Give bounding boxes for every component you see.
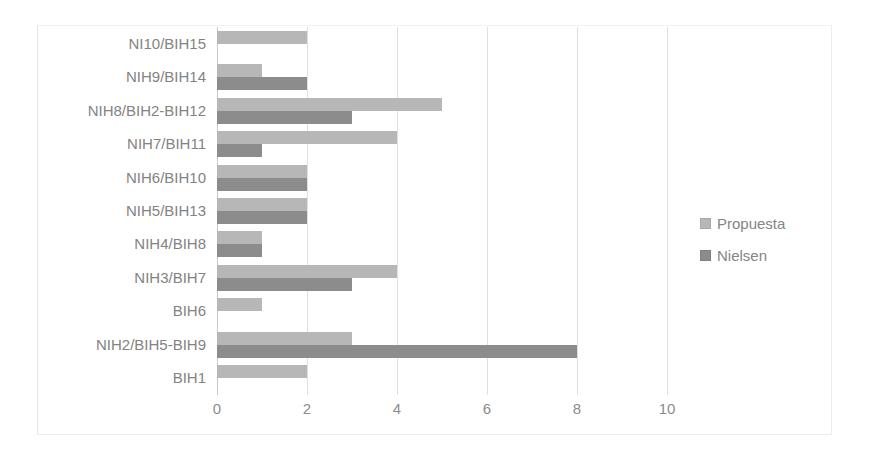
value-tick-label: 2 [303,400,311,417]
category-label: NI10/BIH15 [128,36,206,51]
category-label: NIH6/BIH10 [126,170,206,185]
bar-propuesta[interactable] [217,198,307,211]
bar-propuesta[interactable] [217,365,307,378]
category-label: BIH6 [173,303,206,318]
legend-swatch-icon [700,218,711,229]
bar-group [217,328,667,361]
bar-group [217,261,667,294]
plot-area [217,27,667,395]
category-label: NIH8/BIH2-BIH12 [88,103,206,118]
bar-rows [217,27,667,395]
bar-group [217,362,667,395]
bar-group [217,60,667,93]
bar-propuesta[interactable] [217,298,262,311]
bar-nielsen[interactable] [217,244,262,257]
legend-label: Nielsen [717,248,767,263]
legend-swatch-icon [700,250,711,261]
gridline [667,27,668,395]
bar-nielsen[interactable] [217,77,307,90]
bar-nielsen[interactable] [217,211,307,224]
category-label: NIH4/BIH8 [134,236,206,251]
bar-group [217,127,667,160]
chart-legend: PropuestaNielsen [700,216,840,280]
bar-nielsen[interactable] [217,345,577,358]
value-tick-label: 6 [483,400,491,417]
bar-propuesta[interactable] [217,64,262,77]
bar-propuesta[interactable] [217,265,397,278]
bar-propuesta[interactable] [217,231,262,244]
bar-propuesta[interactable] [217,332,352,345]
category-label: NIH5/BIH13 [126,203,206,218]
bar-propuesta[interactable] [217,31,307,44]
value-tick-label: 8 [573,400,581,417]
bar-group [217,295,667,328]
category-label: NIH2/BIH5-BIH9 [96,337,206,352]
bar-propuesta[interactable] [217,131,397,144]
bar-group [217,161,667,194]
bar-nielsen[interactable] [217,178,307,191]
category-label: NIH9/BIH14 [126,69,206,84]
bar-nielsen[interactable] [217,111,352,124]
bar-group [217,94,667,127]
bar-group [217,194,667,227]
bar-nielsen[interactable] [217,144,262,157]
bar-chart: NI10/BIH15NIH9/BIH14NIH8/BIH2-BIH12NIH7/… [0,0,869,452]
category-label: BIH1 [173,370,206,385]
legend-label: Propuesta [717,216,785,231]
value-tick-label: 0 [213,400,221,417]
bar-group [217,228,667,261]
value-tick-label: 10 [659,400,676,417]
bar-group [217,27,667,60]
category-label: NIH7/BIH11 [127,136,206,151]
legend-item[interactable]: Nielsen [700,248,840,263]
value-tick-label: 4 [393,400,401,417]
bar-nielsen[interactable] [217,278,352,291]
category-label: NIH3/BIH7 [134,270,206,285]
category-axis-labels: NI10/BIH15NIH9/BIH14NIH8/BIH2-BIH12NIH7/… [40,27,212,395]
bar-propuesta[interactable] [217,165,307,178]
bar-propuesta[interactable] [217,98,442,111]
legend-item[interactable]: Propuesta [700,216,840,231]
value-axis-labels: 0246810 [217,400,667,424]
